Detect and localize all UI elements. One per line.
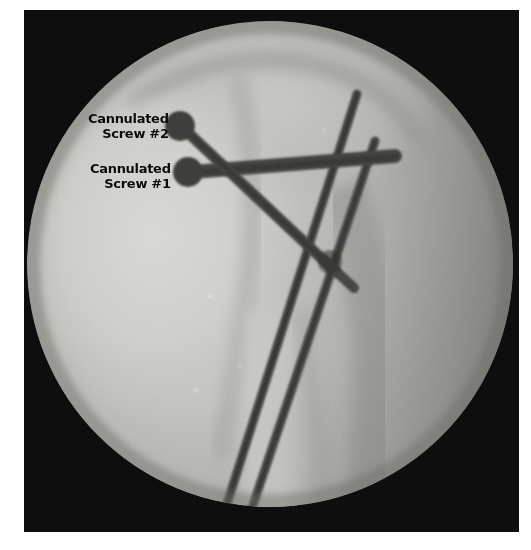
film-grain (24, 10, 519, 532)
annotation-screw-1-line2: Screw #1 (90, 176, 171, 191)
annotation-screw-1-line1: Cannulated (90, 161, 171, 176)
annotation-screw-2-line2: Screw #2 (88, 126, 169, 141)
fluoroscopy-frame: Cannulated Screw #2 Cannulated Screw #1 (24, 10, 519, 532)
annotation-cannulated-screw-1: Cannulated Screw #1 (90, 161, 171, 191)
xray-figure: Cannulated Screw #2 Cannulated Screw #1 (0, 0, 531, 550)
radiograph-canvas (24, 10, 519, 532)
annotation-screw-2-line1: Cannulated (88, 111, 169, 126)
annotation-cannulated-screw-2: Cannulated Screw #2 (88, 111, 169, 141)
